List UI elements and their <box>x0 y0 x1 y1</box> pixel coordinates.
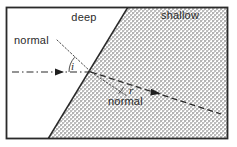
angle-label-incidence: i <box>71 60 74 72</box>
refraction-diagram: deep shallow normal normal i r <box>0 0 237 147</box>
region-label-shallow: shallow <box>161 9 199 21</box>
normal-label-top: normal <box>14 34 49 46</box>
normal-label-bottom: normal <box>108 95 143 107</box>
refraction-diagram-canvas: deep shallow normal normal i r <box>0 0 237 147</box>
region-label-deep: deep <box>71 11 96 23</box>
angle-label-refraction: r <box>129 84 134 96</box>
